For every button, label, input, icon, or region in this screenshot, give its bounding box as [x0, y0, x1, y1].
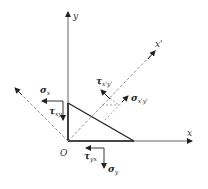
sigma-xpyp-label: σx'y' [131, 93, 148, 105]
origin-label: O [60, 148, 68, 158]
x-axis-label: x [187, 128, 192, 138]
normal-arrow [15, 88, 22, 95]
tau-xpyp-label: τx'y' [96, 76, 112, 88]
x-prime-arrow [148, 51, 155, 59]
sigma-x-label: σx [40, 85, 51, 96]
tau-yx-label: τyx [84, 151, 97, 163]
sigma-y-label: σy [108, 164, 119, 176]
tau-xy-label: τxy [49, 106, 62, 118]
y-axis-label: y [72, 11, 79, 21]
x-prime-axis [68, 50, 156, 141]
sigma-xpyp-guide-2 [110, 98, 119, 105]
tau-xpyp-arrow [101, 90, 110, 99]
element-hypotenuse [68, 103, 134, 141]
stress-diagram: y x x' O σx τxy τyx σy τx'y' σx'y' [0, 0, 208, 189]
sigma-xpyp-arrowhead [122, 96, 128, 102]
x-prime-label: x' [155, 39, 163, 49]
